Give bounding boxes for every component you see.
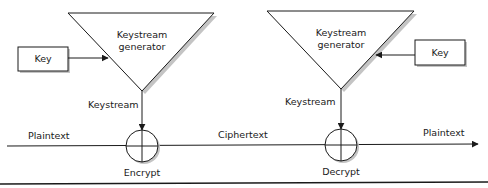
- generator-label-line2: generator: [119, 41, 166, 52]
- decrypt-key-box: Key: [415, 40, 467, 67]
- generator-label-line2: generator: [318, 39, 365, 50]
- generator-label-line1: Keystream: [316, 27, 367, 38]
- ciphertext-label: Ciphertext: [218, 129, 268, 140]
- decrypt-keystream-generator: Keystream generator: [267, 11, 417, 92]
- keystream-label: Keystream: [88, 99, 139, 110]
- encrypt-label: Encrypt: [124, 167, 161, 178]
- output-plaintext-label: Plaintext: [423, 127, 465, 138]
- encrypt-key-box: Key: [18, 47, 70, 73]
- encrypt-keystream-generator: Keystream generator: [68, 13, 217, 94]
- stream-cipher-diagram: Keystream generator Key Keystream Keystr…: [0, 0, 488, 188]
- key-label: Key: [34, 53, 52, 64]
- decrypt-label: Decrypt: [322, 166, 360, 177]
- keystream-label: Keystream: [285, 96, 336, 107]
- generator-triangle-shape: [267, 11, 414, 89]
- key-label: Key: [431, 47, 449, 58]
- input-plaintext-label: Plaintext: [28, 130, 70, 141]
- generator-triangle-shape: [68, 13, 214, 91]
- data-flow-line: [7, 144, 478, 146]
- encrypt-xor-icon: [126, 130, 160, 164]
- generator-label-line1: Keystream: [117, 29, 168, 40]
- decrypt-xor-icon: [325, 129, 359, 163]
- bottom-rule-divider: [0, 182, 488, 184]
